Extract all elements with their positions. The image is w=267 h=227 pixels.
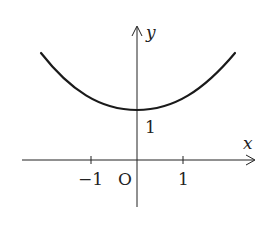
x-tick-label-minus-1: −1 [78,169,103,189]
y-axis-label: y [145,22,156,42]
y-axis [132,26,142,207]
x-axis-label: x [243,133,253,153]
curve [41,53,235,110]
function-graph: y x O −1 1 1 [0,0,267,227]
x-tick-label-1: 1 [178,169,189,189]
origin-label: O [118,169,132,189]
y-tick-label-1: 1 [145,117,156,137]
x-axis [22,155,255,165]
